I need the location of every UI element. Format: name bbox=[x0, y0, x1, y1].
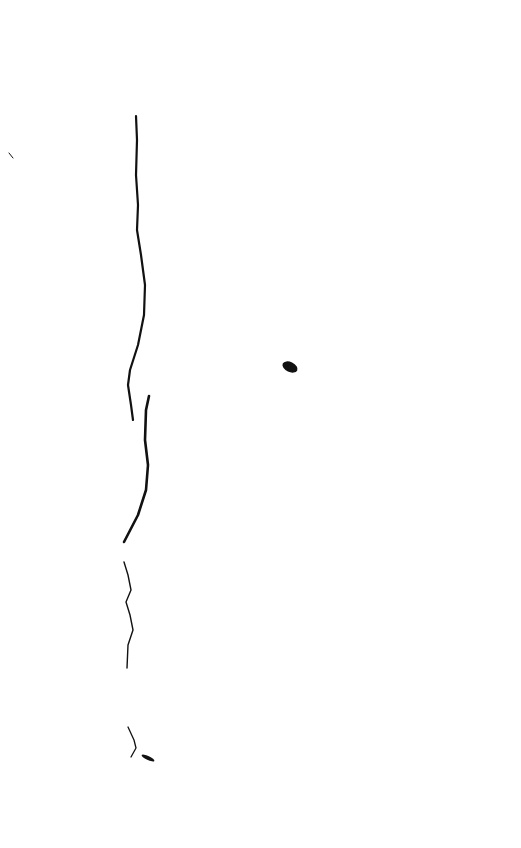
edge-line-middle bbox=[124, 396, 149, 542]
blank-scanned-page bbox=[0, 0, 521, 848]
edge-line-upper bbox=[128, 116, 145, 420]
ink-blot-center bbox=[281, 359, 300, 375]
ink-blot-bottom bbox=[141, 753, 155, 763]
line-drawing bbox=[0, 0, 521, 848]
edge-line-lower bbox=[124, 562, 133, 668]
tick-mark-top-left bbox=[9, 153, 13, 158]
edge-line-bottom bbox=[128, 727, 136, 757]
